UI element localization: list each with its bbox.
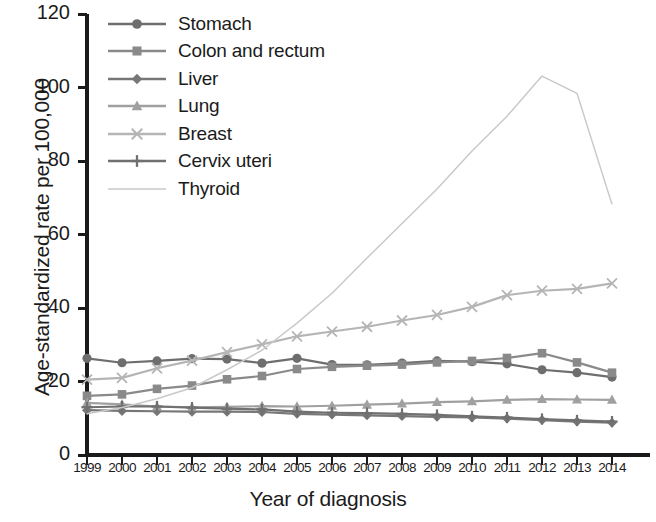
legend-label: Stomach: [178, 13, 252, 35]
data-point: [433, 358, 442, 367]
data-point: [503, 354, 512, 363]
data-point: [396, 408, 407, 419]
data-point: [536, 413, 547, 424]
data-point: [328, 363, 337, 372]
data-point: [118, 390, 127, 399]
data-point: [501, 412, 512, 423]
legend-swatch: [106, 179, 168, 199]
legend-item-lung[interactable]: Lung: [106, 93, 325, 121]
x-tick-label: 2014: [589, 460, 635, 475]
data-point: [468, 357, 477, 366]
legend-label: Liver: [178, 68, 218, 90]
data-point: [606, 416, 617, 427]
y-tick-label: 120: [12, 1, 70, 24]
data-point: [257, 359, 266, 368]
legend-swatch: [106, 14, 168, 34]
data-point: [537, 365, 546, 374]
series-liver: [82, 405, 617, 427]
legend: StomachColon and rectumLiverLungBreastCe…: [106, 10, 325, 203]
data-point: [293, 365, 302, 374]
legend-item-thyroid[interactable]: Thyroid: [106, 175, 325, 203]
data-point: [153, 385, 162, 394]
data-point: [117, 358, 126, 367]
data-point: [571, 415, 582, 426]
series-colon-and-rectum: [83, 349, 617, 400]
legend-item-stomach[interactable]: Stomach: [106, 10, 325, 38]
data-point: [363, 361, 372, 370]
chart-container: 020406080100120 199920002001200220032004…: [0, 0, 656, 522]
data-point: [572, 368, 581, 377]
legend-item-breast[interactable]: Breast: [106, 120, 325, 148]
legend-item-colon-and-rectum[interactable]: Colon and rectum: [106, 38, 325, 66]
data-point: [223, 375, 232, 384]
data-point: [573, 358, 582, 367]
data-point: [398, 360, 407, 369]
legend-label: Colon and rectum: [178, 40, 325, 62]
legend-swatch: [106, 124, 168, 144]
plot-area: [0, 0, 656, 522]
data-point: [431, 409, 442, 420]
legend-swatch: [106, 41, 168, 61]
data-point: [466, 411, 477, 422]
legend-label: Breast: [178, 123, 232, 145]
data-point: [82, 354, 91, 363]
data-point: [258, 372, 267, 381]
y-axis-label: Age-standardized rate per 100,000: [30, 27, 54, 447]
legend-label: Thyroid: [178, 178, 240, 200]
x-axis-label: Year of diagnosis: [0, 487, 656, 511]
legend-label: Lung: [178, 95, 219, 117]
legend-item-liver[interactable]: Liver: [106, 65, 325, 93]
data-point: [361, 408, 372, 419]
legend-swatch: [106, 69, 168, 89]
data-point: [292, 354, 301, 363]
data-point: [291, 406, 302, 417]
legend-item-cervix-uteri[interactable]: Cervix uteri: [106, 148, 325, 176]
legend-swatch: [106, 151, 168, 171]
legend-label: Cervix uteri: [178, 150, 272, 172]
data-point: [608, 368, 617, 377]
legend-swatch: [106, 96, 168, 116]
series-line: [87, 358, 612, 377]
data-point: [538, 349, 547, 358]
